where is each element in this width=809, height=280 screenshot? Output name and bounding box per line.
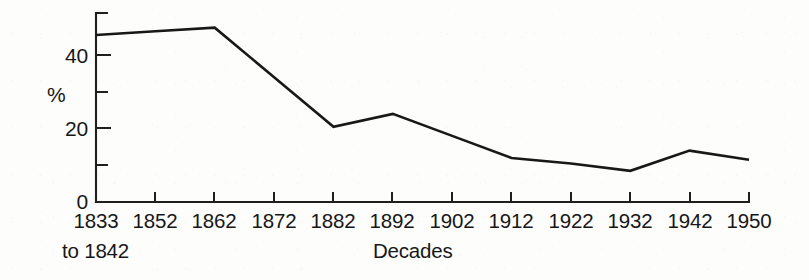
line-chart-plot (0, 0, 809, 280)
y-tick-label-20: 20 (40, 118, 88, 139)
x-tick-label-1852: 1852 (121, 211, 189, 232)
x-axis-title: Decades (373, 241, 453, 262)
x-tick-label-1912: 1912 (477, 211, 545, 232)
y-axis-title: % (47, 84, 65, 105)
x-tick-label-1833: 1833 (62, 211, 130, 232)
x-tick-label-continuation: to 1842 (62, 241, 129, 262)
x-axis-ticks (96, 192, 749, 202)
x-tick-label-1950: 1950 (715, 211, 783, 232)
x-tick-label-1942: 1942 (656, 211, 724, 232)
x-tick-label-1862: 1862 (180, 211, 248, 232)
x-tick-label-1892: 1892 (358, 211, 426, 232)
x-tick-label-1872: 1872 (240, 211, 308, 232)
chart-figure: 40 20 0 % 1833 1852 1862 1872 1882 1892 … (0, 0, 809, 280)
x-tick-label-1922: 1922 (537, 211, 605, 232)
data-series-line (96, 28, 749, 171)
x-tick-label-1902: 1902 (418, 211, 486, 232)
x-tick-label-1932: 1932 (596, 211, 664, 232)
x-tick-label-1882: 1882 (299, 211, 367, 232)
y-tick-label-40: 40 (40, 45, 88, 66)
